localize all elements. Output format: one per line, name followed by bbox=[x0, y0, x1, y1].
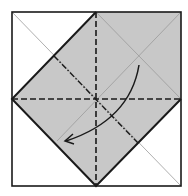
origami-diagram bbox=[0, 0, 188, 196]
